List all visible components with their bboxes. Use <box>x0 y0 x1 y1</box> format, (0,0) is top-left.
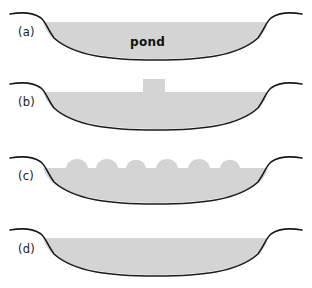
panel-label-d: (d) <box>18 244 35 256</box>
panel-label-b: (b) <box>18 97 35 109</box>
pond-annotation: pond <box>130 36 165 48</box>
panel-c: (c) <box>0 144 312 216</box>
panel-d: (d) <box>0 216 312 288</box>
panel-b-diagram <box>0 70 312 142</box>
panel-c-fill <box>43 159 268 203</box>
panel-label-c: (c) <box>18 171 34 183</box>
panel-d-fill <box>43 238 268 275</box>
panel-d-diagram <box>0 216 312 288</box>
panel-label-a: (a) <box>18 27 35 39</box>
pond-cross-section-figure: (a) pond (b) (c) (d) <box>0 0 312 288</box>
panel-c-diagram <box>0 144 312 216</box>
panel-a: (a) pond <box>0 0 312 72</box>
panel-b: (b) <box>0 70 312 142</box>
